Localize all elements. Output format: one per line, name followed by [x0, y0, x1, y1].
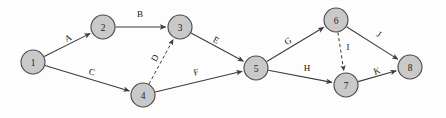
edge-label-h: H — [304, 63, 311, 73]
node-7-label: 7 — [344, 81, 349, 91]
edge-label-f: F — [192, 67, 199, 78]
edge-label-k: K — [372, 65, 382, 77]
node-7[interactable]: 7 — [334, 73, 358, 97]
edge-label-i: I — [347, 42, 350, 52]
node-3[interactable]: 3 — [168, 15, 192, 39]
edge-h-line — [268, 70, 332, 82]
node-6-label: 6 — [334, 16, 339, 26]
node-5[interactable]: 5 — [244, 56, 268, 80]
nodes-layer: 12345678 — [21, 8, 422, 107]
network-diagram-canvas: 12345678 ABCDEFGHIJK — [0, 0, 446, 118]
edge-c-line — [45, 66, 129, 91]
node-6[interactable]: 6 — [324, 8, 348, 32]
edge-i-line — [338, 32, 344, 71]
edge-label-c: C — [88, 66, 97, 77]
node-5-label: 5 — [254, 64, 259, 74]
edge-label-b: B — [137, 9, 143, 19]
node-8[interactable]: 8 — [398, 55, 422, 79]
edge-j-line — [347, 27, 398, 60]
node-1[interactable]: 1 — [21, 50, 45, 74]
edge-label-d: D — [149, 52, 161, 63]
edge-d-line — [149, 39, 173, 84]
edge-label-g: G — [283, 35, 294, 47]
node-4[interactable]: 4 — [131, 83, 155, 107]
node-3-label: 3 — [178, 23, 183, 33]
node-1-label: 1 — [31, 58, 36, 68]
node-2[interactable]: 2 — [91, 15, 115, 39]
edge-g-line — [267, 27, 324, 61]
node-8-label: 8 — [408, 63, 413, 73]
node-2-label: 2 — [101, 23, 106, 33]
edge-label-j: J — [375, 29, 384, 39]
network-diagram: 12345678 ABCDEFGHIJK — [0, 0, 446, 118]
node-4-label: 4 — [141, 91, 146, 101]
